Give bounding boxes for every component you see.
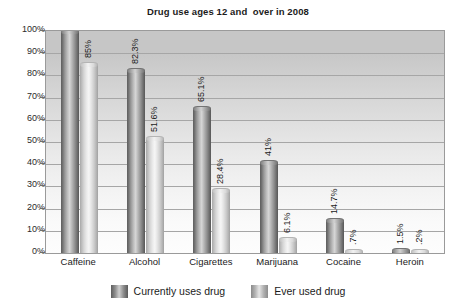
bar-body: [80, 64, 98, 253]
bar[interactable]: 65.1%: [193, 108, 211, 253]
bar-group: 14.7%.7%: [311, 31, 377, 253]
bar-cap: [80, 62, 98, 67]
bar-body: [193, 108, 211, 253]
bar-group: 85%: [46, 31, 112, 253]
y-axis-tick-label: 90%: [11, 46, 45, 56]
legend-label: Currently uses drug: [134, 285, 226, 297]
bar[interactable]: [61, 31, 79, 253]
y-axis-tick-label: 70%: [11, 91, 45, 101]
bar-value-label: 85%: [83, 40, 93, 58]
legend-swatch-icon: [251, 285, 268, 298]
bar-value-label: 6.1%: [282, 213, 292, 234]
legend-item[interactable]: Currently uses drug: [111, 285, 226, 298]
bar[interactable]: .7%: [345, 251, 363, 253]
bar-group: 41%6.1%: [245, 31, 311, 253]
bar-cap: [392, 248, 410, 253]
y-axis-tick-label: 10%: [11, 224, 45, 234]
x-axis: CaffeineAlcoholCigarettesMarijuanaCocain…: [45, 256, 445, 274]
bar-group: 65.1%28.4%: [179, 31, 245, 253]
bar-body: [212, 190, 230, 253]
bar[interactable]: 14.7%: [326, 220, 344, 253]
y-axis-tick-label: 20%: [11, 202, 45, 212]
legend-swatch-icon: [111, 285, 128, 298]
bar-cap: [146, 136, 164, 141]
bar-cap: [127, 68, 145, 73]
bar-group: 1.5%.2%: [378, 31, 444, 253]
y-axis: 100%90%80%70%60%50%40%30%20%10%0%: [0, 30, 45, 254]
bar-cap: [326, 218, 344, 223]
chart-legend: Currently uses drugEver used drug: [0, 283, 456, 299]
bar[interactable]: 1.5%: [392, 250, 410, 253]
bar-chart: Drug use ages 12 and over in 2008 100%90…: [0, 0, 456, 302]
bar-value-label: 41%: [263, 138, 273, 156]
bar-value-label: .2%: [414, 229, 424, 245]
legend-item[interactable]: Ever used drug: [251, 285, 345, 298]
bar-value-label: 1.5%: [395, 223, 405, 244]
y-axis-tick-label: 100%: [11, 24, 45, 34]
bar-value-label: 28.4%: [215, 158, 225, 184]
bar-cap: [212, 188, 230, 193]
bar-value-label: 65.1%: [196, 77, 206, 103]
x-axis-tick-label: Cigarettes: [189, 256, 232, 267]
y-axis-tick-label: 30%: [11, 179, 45, 189]
bar-value-label: 14.7%: [329, 189, 339, 215]
bar-body: [146, 138, 164, 253]
bar-body: [326, 220, 344, 253]
bar-body: [260, 162, 278, 253]
bar[interactable]: 82.3%: [127, 70, 145, 253]
bar-cap: [345, 249, 363, 254]
bar-group: 82.3%51.6%: [112, 31, 178, 253]
x-axis-tick-label: Heroin: [396, 256, 424, 267]
bar-cap: [61, 30, 79, 34]
bar-value-label: 82.3%: [130, 39, 140, 65]
bar-body: [127, 70, 145, 253]
y-axis-tick-label: 0%: [11, 246, 45, 256]
x-axis-tick-label: Caffeine: [61, 256, 96, 267]
bar-body: [61, 31, 79, 253]
y-axis-tick-label: 40%: [11, 157, 45, 167]
bar[interactable]: 85%: [80, 64, 98, 253]
bar-cap: [411, 249, 429, 254]
bar-cap: [279, 237, 297, 242]
y-axis-tick-label: 60%: [11, 113, 45, 123]
bar[interactable]: 41%: [260, 162, 278, 253]
plot-area: 85%82.3%51.6%65.1%28.4%41%6.1%14.7%.7%1.…: [45, 30, 445, 254]
bar[interactable]: 51.6%: [146, 138, 164, 253]
chart-title: Drug use ages 12 and over in 2008: [0, 6, 456, 17]
bar-cap: [260, 160, 278, 165]
bar[interactable]: 28.4%: [212, 190, 230, 253]
x-axis-tick-label: Alcohol: [129, 256, 160, 267]
x-axis-tick-label: Marijuana: [256, 256, 298, 267]
x-axis-tick-label: Cocaine: [326, 256, 361, 267]
bar[interactable]: .2%: [411, 251, 429, 253]
bar[interactable]: 6.1%: [279, 239, 297, 253]
legend-label: Ever used drug: [274, 285, 345, 297]
y-axis-tick-label: 50%: [11, 135, 45, 145]
bar-value-label: 51.6%: [149, 107, 159, 133]
y-axis-tick-label: 80%: [11, 68, 45, 78]
bar-value-label: .7%: [348, 229, 358, 245]
